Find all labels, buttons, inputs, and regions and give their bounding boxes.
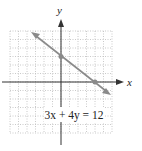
equation-label: 3x + 4y = 12: [45, 109, 104, 122]
y-axis-label: y: [56, 4, 62, 16]
y-axis-arrow-icon: [58, 19, 64, 27]
x-axis: [2, 79, 124, 85]
coordinate-graph: x y 3x + 4y = 12: [0, 0, 142, 151]
equation-line: [31, 32, 111, 95]
x-axis-label: x: [126, 76, 132, 88]
y-intercept-point: [59, 54, 64, 59]
x-intercept-point: [93, 80, 98, 85]
x-axis-arrow-icon: [116, 79, 124, 85]
